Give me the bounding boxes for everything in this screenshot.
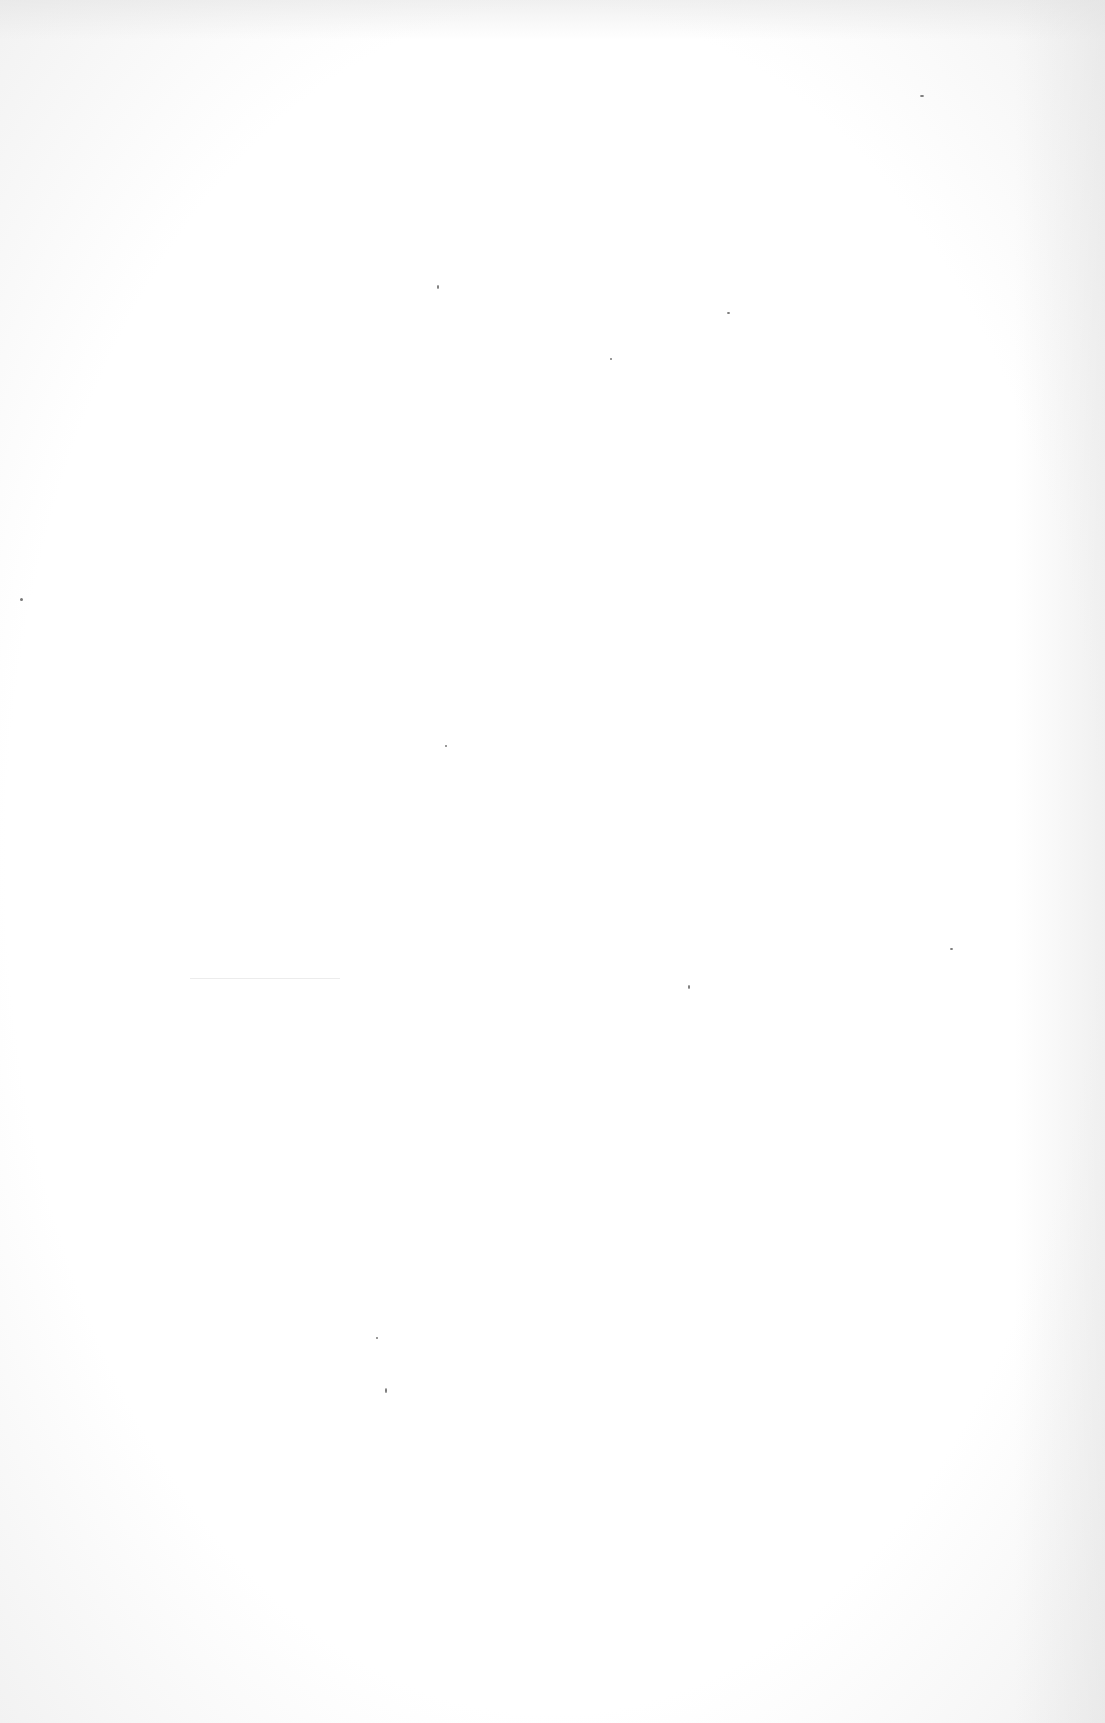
speck (920, 95, 924, 97)
speck (20, 598, 23, 601)
speck (727, 312, 730, 314)
speck (437, 285, 439, 289)
speck (376, 1337, 378, 1339)
speck (445, 745, 447, 747)
speck (610, 358, 612, 360)
scan-shadow-top (0, 0, 1105, 40)
speck (688, 985, 690, 989)
speck (385, 1388, 387, 1393)
speck (950, 948, 953, 950)
scan-shadow-right (1015, 0, 1105, 1723)
blank-page (0, 0, 1105, 1723)
faint-line (190, 978, 340, 979)
